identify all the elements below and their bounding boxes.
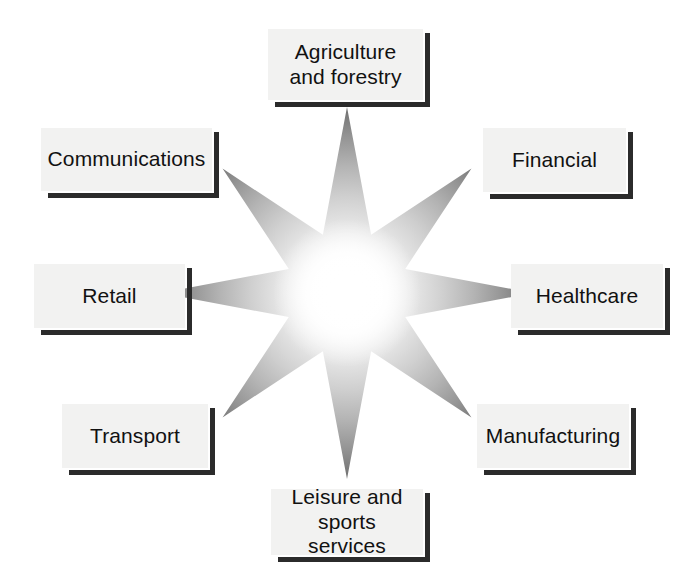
label-box-manufacturing[interactable]: Manufacturing	[477, 404, 629, 468]
star-core-glow	[273, 219, 421, 367]
diagram-canvas: Agriculture and forestryFinancialHealthc…	[0, 0, 693, 587]
label-text-leisure-and-sports-services: Leisure and sports services	[271, 485, 423, 558]
label-box-financial[interactable]: Financial	[483, 128, 626, 192]
label-box-communications[interactable]: Communications	[41, 128, 212, 191]
label-text-communications: Communications	[42, 147, 212, 171]
label-box-healthcare[interactable]: Healthcare	[511, 264, 663, 328]
label-box-leisure-and-sports-services[interactable]: Leisure and sports services	[271, 489, 423, 555]
label-text-retail: Retail	[76, 284, 142, 308]
label-text-healthcare: Healthcare	[530, 284, 645, 308]
label-text-manufacturing: Manufacturing	[480, 424, 626, 448]
label-text-financial: Financial	[506, 148, 603, 172]
label-box-retail[interactable]: Retail	[34, 264, 185, 328]
label-text-agriculture-and-forestry: Agriculture and forestry	[283, 40, 407, 89]
label-box-transport[interactable]: Transport	[62, 404, 208, 468]
label-text-transport: Transport	[84, 424, 186, 448]
label-box-agriculture-and-forestry[interactable]: Agriculture and forestry	[268, 29, 423, 100]
